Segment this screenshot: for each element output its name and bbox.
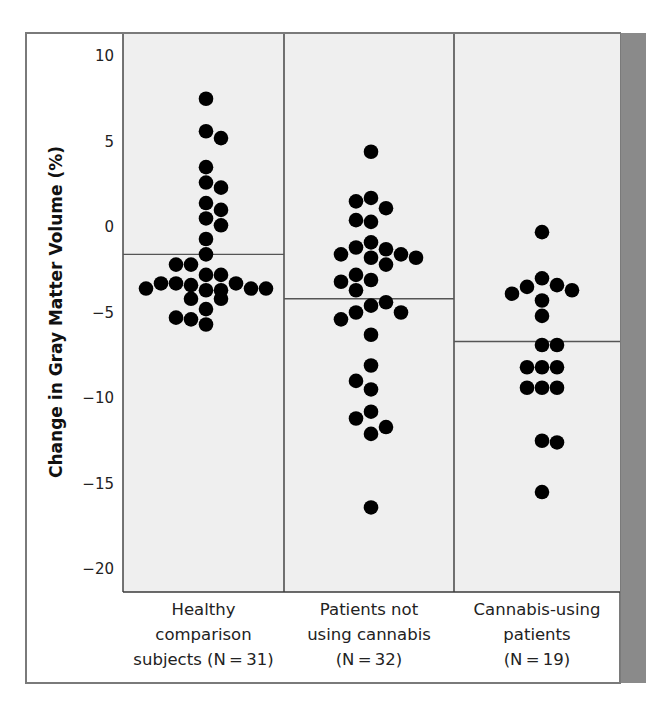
data-point — [199, 247, 214, 262]
data-point — [364, 250, 379, 265]
data-point — [214, 292, 229, 307]
data-point — [229, 276, 244, 291]
data-point — [535, 309, 550, 324]
data-point — [199, 196, 214, 211]
data-point — [199, 91, 214, 106]
data-point — [520, 360, 535, 375]
data-point — [349, 411, 364, 426]
data-point — [535, 225, 550, 240]
data-point — [334, 247, 349, 262]
data-point — [535, 271, 550, 286]
data-point — [409, 250, 424, 265]
data-point — [199, 124, 214, 139]
y-tick-label: −5 — [92, 304, 114, 322]
data-point — [364, 327, 379, 342]
y-tick-label: −10 — [82, 389, 114, 407]
data-point — [364, 298, 379, 313]
data-point — [214, 218, 229, 233]
data-point — [505, 286, 520, 301]
data-point — [214, 203, 229, 218]
data-point — [394, 305, 409, 320]
data-point — [169, 257, 184, 272]
data-point — [184, 292, 199, 307]
category-label: using cannabis — [307, 625, 431, 644]
data-point — [259, 281, 274, 296]
category-label: Patients not — [320, 600, 419, 619]
y-tick-label: 5 — [104, 133, 114, 151]
category-label: (N = 32) — [336, 650, 403, 669]
data-point — [550, 380, 565, 395]
data-point — [199, 268, 214, 283]
data-point — [364, 273, 379, 288]
data-point — [349, 213, 364, 228]
data-point — [349, 268, 364, 283]
data-point — [364, 358, 379, 373]
data-point — [379, 201, 394, 216]
data-point — [364, 500, 379, 515]
data-point — [334, 274, 349, 289]
data-point — [184, 312, 199, 327]
data-point — [364, 427, 379, 442]
data-point — [535, 360, 550, 375]
data-point — [184, 278, 199, 293]
data-point — [565, 283, 580, 298]
data-point — [139, 281, 154, 296]
data-point — [199, 317, 214, 332]
side-strip — [620, 33, 646, 683]
data-point — [349, 194, 364, 209]
data-point — [199, 302, 214, 317]
y-tick-label: 10 — [95, 47, 114, 65]
data-point — [199, 283, 214, 298]
data-point — [244, 281, 259, 296]
data-point — [550, 360, 565, 375]
category-label: patients — [503, 625, 570, 644]
data-point — [349, 240, 364, 255]
data-point — [364, 191, 379, 206]
category-label: Healthy — [172, 600, 236, 619]
data-point — [535, 338, 550, 353]
data-point — [364, 235, 379, 250]
data-point — [379, 257, 394, 272]
data-point — [349, 305, 364, 320]
data-point — [184, 257, 199, 272]
data-point — [550, 278, 565, 293]
data-point — [520, 280, 535, 295]
y-tick-label: 0 — [104, 218, 114, 236]
data-point — [364, 215, 379, 230]
data-point — [169, 276, 184, 291]
category-labels: Healthycomparisonsubjects (N = 31)Patien… — [133, 600, 600, 669]
data-point — [364, 144, 379, 159]
data-point — [349, 374, 364, 389]
data-point — [550, 435, 565, 450]
data-point — [364, 382, 379, 397]
data-point — [379, 420, 394, 435]
data-point — [550, 338, 565, 353]
category-label: Cannabis-using — [474, 600, 601, 619]
category-label: subjects (N = 31) — [133, 650, 273, 669]
data-point — [199, 160, 214, 175]
data-point — [199, 232, 214, 247]
data-point — [214, 131, 229, 146]
data-point — [535, 293, 550, 308]
data-point — [169, 310, 184, 325]
data-point — [535, 433, 550, 448]
dot-plot-figure: 1050−5−10−15−20 Change in Gray Matter Vo… — [0, 0, 668, 704]
data-point — [364, 404, 379, 419]
data-point — [154, 276, 169, 291]
data-point — [214, 180, 229, 195]
data-point — [379, 295, 394, 310]
category-label: (N = 19) — [504, 650, 571, 669]
data-point — [214, 268, 229, 283]
data-point — [535, 485, 550, 500]
data-point — [199, 211, 214, 226]
data-point — [199, 175, 214, 190]
data-point — [520, 380, 535, 395]
data-point — [349, 283, 364, 298]
data-point — [535, 380, 550, 395]
data-point — [379, 242, 394, 257]
category-label: comparison — [155, 625, 251, 644]
y-axis-label: Change in Gray Matter Volume (%) — [46, 146, 66, 478]
y-tick-label: −15 — [82, 475, 114, 493]
data-point — [394, 247, 409, 262]
data-point — [334, 312, 349, 327]
